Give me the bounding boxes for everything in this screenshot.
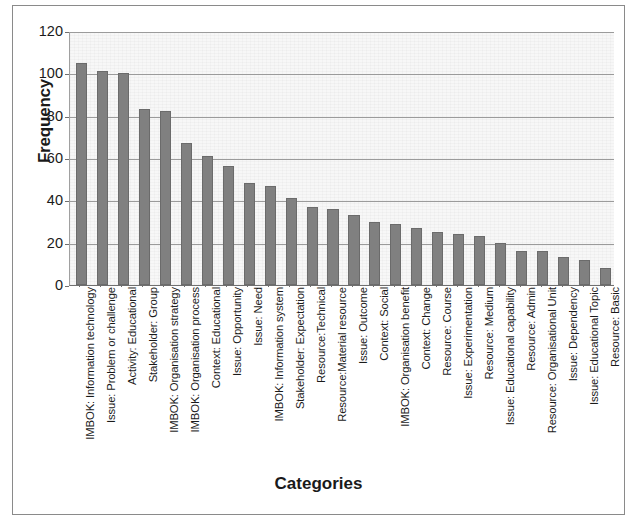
bar[interactable] xyxy=(118,73,129,285)
y-tick-label-40: 40 xyxy=(21,192,63,208)
x-tick-mark xyxy=(604,284,605,287)
x-axis-tick-labels: IMBOK: Information technologyIssue: Prob… xyxy=(69,287,614,467)
bar[interactable] xyxy=(432,232,443,285)
x-tick-label: Activity: Educational xyxy=(126,287,138,385)
x-tick-mark xyxy=(226,284,227,287)
x-tick-mark xyxy=(310,284,311,287)
x-tick-mark xyxy=(583,284,584,287)
bar[interactable] xyxy=(516,251,527,285)
x-tick-mark xyxy=(562,284,563,287)
x-tick-label: Context: Social xyxy=(378,287,390,361)
bar[interactable] xyxy=(202,156,213,285)
x-tick-label: IMBOK: Organisation process xyxy=(189,287,201,432)
x-axis-title: Categories xyxy=(13,474,624,494)
bar[interactable] xyxy=(495,243,506,285)
x-tick-label: Resource: Course xyxy=(441,287,453,376)
x-tick-label: Issue: Outcome xyxy=(357,287,369,364)
x-tick-label: Resource:Material resource xyxy=(336,287,348,422)
bar[interactable] xyxy=(537,251,548,285)
x-tick-mark xyxy=(394,284,395,287)
bar[interactable] xyxy=(181,143,192,285)
x-tick-mark xyxy=(331,284,332,287)
bar[interactable] xyxy=(453,234,464,285)
x-tick-label: IMBOK: Organisation benefit xyxy=(399,287,411,427)
x-tick-label: Stakeholder: Group xyxy=(147,287,159,382)
x-tick-mark xyxy=(79,284,80,287)
x-tick-label: Context: Change xyxy=(420,287,432,370)
x-tick-mark xyxy=(142,284,143,287)
bar[interactable] xyxy=(265,186,276,285)
y-tick-label-100: 100 xyxy=(21,65,63,81)
y-tick-label-120: 120 xyxy=(21,23,63,39)
x-tick-mark xyxy=(268,284,269,287)
bar[interactable] xyxy=(558,257,569,285)
x-tick-mark xyxy=(499,284,500,287)
bar[interactable] xyxy=(223,166,234,285)
x-tick-mark xyxy=(247,284,248,287)
bar[interactable] xyxy=(600,268,611,285)
x-tick-label: Resource: Admin xyxy=(525,287,537,371)
bar[interactable] xyxy=(390,224,401,285)
y-tick-label-80: 80 xyxy=(21,108,63,124)
x-tick-label: Issue: Educational capability xyxy=(504,287,516,425)
bar[interactable] xyxy=(139,109,150,285)
x-tick-mark xyxy=(163,284,164,287)
bar[interactable] xyxy=(327,209,338,285)
x-tick-mark xyxy=(436,284,437,287)
x-tick-mark xyxy=(457,284,458,287)
x-tick-mark xyxy=(541,284,542,287)
x-tick-label: Issue: Opportunity xyxy=(231,287,243,376)
bar[interactable] xyxy=(244,183,255,285)
bar[interactable] xyxy=(286,198,297,285)
x-tick-label: Resource:Technical xyxy=(315,287,327,383)
x-tick-label: Context: Educational xyxy=(210,287,222,388)
y-tick-label-20: 20 xyxy=(21,235,63,251)
bar[interactable] xyxy=(579,260,590,285)
x-tick-label: IMBOK: Organisation strategy xyxy=(168,287,180,433)
y-tick-label-0: 0 xyxy=(21,277,63,293)
x-tick-mark xyxy=(373,284,374,287)
x-tick-label: Issue: Experimentation xyxy=(462,287,474,399)
x-tick-mark xyxy=(205,284,206,287)
x-tick-label: Resource: Basic xyxy=(609,287,621,367)
x-tick-label: Resource: Organisational Unit xyxy=(546,287,558,433)
x-tick-mark xyxy=(289,284,290,287)
x-tick-mark xyxy=(100,284,101,287)
bar[interactable] xyxy=(307,207,318,285)
x-tick-mark xyxy=(520,284,521,287)
x-tick-mark xyxy=(478,284,479,287)
x-tick-mark xyxy=(121,284,122,287)
x-tick-label: Issue: Educational Topic xyxy=(588,287,600,405)
x-tick-label: Issue: Need xyxy=(252,287,264,346)
bar-series xyxy=(71,32,614,285)
x-tick-label: IMBOK: Information system xyxy=(273,287,285,421)
y-tick-label-60: 60 xyxy=(21,150,63,166)
bar[interactable] xyxy=(474,236,485,285)
x-tick-label: Resource: Medium xyxy=(483,287,495,379)
x-tick-mark xyxy=(415,284,416,287)
bar[interactable] xyxy=(369,222,380,286)
bar[interactable] xyxy=(411,228,422,285)
x-tick-label: Issue: Problem or challenge xyxy=(105,287,117,423)
x-tick-mark xyxy=(184,284,185,287)
x-tick-label: Issue: Dependency xyxy=(567,287,579,381)
chart-figure-frame: Frequency 020406080100120 IMBOK: Informa… xyxy=(12,5,625,515)
bar[interactable] xyxy=(160,111,171,285)
x-tick-mark xyxy=(352,284,353,287)
x-tick-label: Stakeholder: Expectation xyxy=(294,287,306,409)
x-tick-label: IMBOK: Information technology xyxy=(84,287,96,440)
bar[interactable] xyxy=(97,71,108,285)
plot-area xyxy=(69,32,614,286)
bar[interactable] xyxy=(348,215,359,285)
bar[interactable] xyxy=(76,63,87,285)
